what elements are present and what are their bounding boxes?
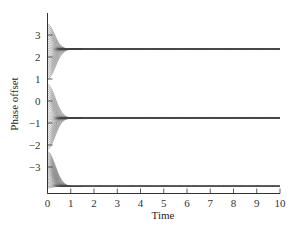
trajectory-line [48, 152, 281, 187]
trajectory-line [48, 49, 281, 64]
trajectory-line [48, 49, 281, 52]
trajectory-line [48, 49, 281, 69]
trajectory-line [48, 155, 281, 187]
y-tick-label: 1 [35, 73, 41, 85]
trajectory-line [48, 157, 281, 186]
trajectory-line [48, 99, 281, 118]
trajectory-line [48, 181, 281, 187]
x-tick-label: 2 [91, 197, 97, 209]
trajectory-line [48, 153, 281, 186]
x-tick-label: 1 [68, 197, 74, 209]
trajectory-line [48, 49, 281, 66]
trajectory-line [48, 114, 281, 118]
trajectory-line [48, 118, 281, 126]
trajectory-line [48, 101, 281, 118]
trajectory-line [48, 118, 281, 143]
trajectory-line [48, 33, 281, 49]
y-tick-label: −2 [29, 139, 41, 151]
trajectory-line [48, 166, 281, 186]
trajectory-line [48, 91, 281, 118]
trajectory-line [48, 95, 281, 118]
y-tick-label: −1 [29, 117, 41, 129]
trajectory-line [48, 49, 281, 68]
trajectory-line [48, 112, 281, 118]
trajectory-line [48, 118, 281, 124]
trajectory-line [48, 178, 281, 187]
trajectory-line [48, 170, 281, 186]
trajectory-line [48, 49, 281, 73]
trajectory-line [48, 162, 281, 187]
x-tick-label: 10 [275, 197, 287, 209]
axes: 012345678910−3−2−10123 [29, 13, 286, 209]
trajectory-line [48, 160, 281, 186]
trajectory-line [48, 118, 281, 145]
trajectory-line [48, 105, 281, 118]
trajectory-line [48, 41, 281, 49]
trajectory-line [48, 118, 281, 141]
trajectory-curves [48, 24, 281, 188]
trajectory-line [48, 39, 281, 49]
x-tick-label: 0 [45, 197, 51, 209]
trajectory-line [48, 26, 281, 49]
x-tick-label: 7 [208, 197, 214, 209]
trajectory-line [48, 49, 281, 77]
trajectory-line [48, 176, 281, 186]
trajectory-line [48, 118, 281, 128]
phase-offset-chart: 012345678910−3−2−10123 Time Phase offset [0, 0, 298, 231]
trajectory-line [48, 172, 281, 186]
trajectory-line [48, 110, 281, 119]
trajectory-line [48, 118, 281, 139]
trajectory-line [48, 30, 281, 49]
trajectory-line [48, 103, 281, 118]
trajectory-line [48, 49, 281, 54]
trajectory-line [48, 32, 281, 49]
x-tick-label: 8 [231, 197, 237, 209]
trajectory-line [48, 159, 281, 187]
y-axis-label: Phase offset [8, 77, 20, 130]
x-tick-label: 3 [115, 197, 121, 209]
trajectory-line [48, 85, 281, 119]
trajectory-line [48, 49, 281, 71]
trajectory-line [48, 118, 281, 130]
x-tick-label: 5 [161, 197, 167, 209]
trajectory-line [48, 163, 281, 186]
trajectory-line [48, 118, 281, 132]
x-axis-label: Time [152, 209, 175, 221]
trajectory-line [48, 49, 281, 56]
trajectory-line [48, 97, 281, 118]
trajectory-line [48, 118, 281, 137]
trajectory-line [48, 49, 281, 62]
trajectory-line [48, 35, 281, 49]
trajectory-line [48, 43, 281, 49]
x-tick-label: 4 [138, 197, 144, 209]
trajectory-line [48, 156, 281, 186]
trajectory-line [48, 179, 281, 186]
trajectory-line [48, 87, 281, 119]
trajectory-line [48, 49, 281, 75]
trajectory-line [48, 49, 281, 58]
trajectory-line [48, 173, 281, 186]
trajectory-line [48, 24, 281, 49]
trajectory-line [48, 168, 281, 187]
trajectory-line [48, 37, 281, 49]
trajectory-line [48, 118, 281, 149]
trajectory-line [48, 28, 281, 49]
y-tick-label: −3 [29, 161, 41, 173]
trajectory-line [48, 49, 281, 60]
trajectory-line [48, 118, 281, 122]
trajectory-line [48, 49, 281, 79]
y-tick-label: 2 [35, 51, 41, 63]
y-tick-label: 3 [35, 29, 41, 41]
trajectory-line [48, 45, 281, 49]
x-tick-label: 9 [254, 197, 260, 209]
trajectory-line [48, 89, 281, 118]
y-tick-label: 0 [35, 95, 41, 107]
trajectory-line [48, 165, 281, 187]
trajectory-line [48, 182, 281, 186]
trajectory-line [48, 108, 281, 119]
trajectory-line [48, 118, 281, 147]
trajectory-line [48, 93, 281, 118]
trajectory-line [48, 175, 281, 187]
x-tick-label: 6 [184, 197, 190, 209]
trajectory-line [48, 169, 281, 186]
